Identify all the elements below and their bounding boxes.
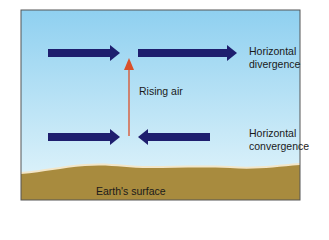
rising-air-label: Rising air bbox=[139, 85, 183, 98]
convergence-label-line1: Horizontal bbox=[249, 127, 296, 140]
divergence-label-line1: Horizontal bbox=[249, 45, 296, 58]
convergence-label-line2: convergence bbox=[249, 140, 309, 153]
earth-surface-label: Earth's surface bbox=[96, 185, 166, 198]
divergence-label-line2: divergence bbox=[249, 58, 300, 71]
